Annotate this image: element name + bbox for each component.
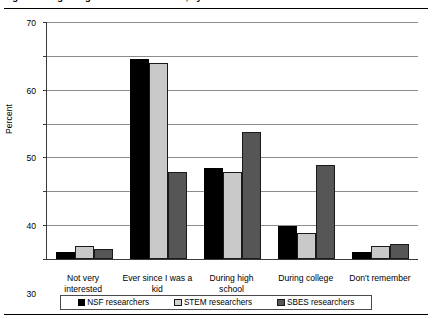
legend-swatch-icon [174, 299, 182, 307]
y-axis-tick-label: 70 [26, 18, 36, 28]
bar-nsf [204, 168, 223, 259]
chart-legend: NSF researchersSTEM researchersSBES rese… [60, 295, 372, 310]
x-axis-labels: Not very interestedEver since I was a ki… [46, 273, 417, 294]
y-axis-tick-label: 30 [26, 289, 36, 299]
bar-sbes [168, 172, 187, 259]
y-axis-title: Percent [4, 79, 14, 159]
x-axis-category-label: Ever since I was a kid [120, 273, 194, 294]
bar-stem [149, 63, 168, 259]
bar-group [344, 22, 418, 259]
legend-item[interactable]: STEM researchers [174, 298, 252, 307]
legend-label: STEM researchers [184, 298, 252, 307]
legend-item[interactable]: SBES researchers [277, 298, 354, 307]
top-divider-rule [4, 8, 428, 9]
bar-group [47, 22, 121, 259]
bar-stem [371, 246, 390, 259]
bar-group [195, 22, 269, 259]
legend-item[interactable]: NSF researchers [78, 298, 149, 307]
bar-group [270, 22, 344, 259]
legend-swatch-icon [78, 299, 86, 307]
bar-stem [297, 233, 316, 259]
bar-stem [223, 172, 242, 259]
legend-label: SBES researchers [287, 298, 354, 307]
y-axis-tick-label: 40 [26, 221, 36, 231]
legend-swatch-icon [277, 299, 285, 307]
x-axis-category-label: Not very interested [46, 273, 120, 294]
plot-wrapper: Percent 010203040506070 Not very interes… [0, 14, 432, 269]
bar-sbes [242, 132, 261, 259]
bar-sbes [94, 249, 113, 259]
figure-title-strip: Figure 1. Beginning of interest in scien… [0, 0, 432, 5]
y-axis-tick-label: 60 [26, 86, 36, 96]
bar-nsf [278, 226, 297, 259]
x-axis-category-label: During high school [194, 273, 268, 294]
bar-nsf [56, 252, 75, 259]
bar-sbes [390, 244, 409, 259]
figure-title: Figure 1. Beginning of interest in scien… [0, 0, 432, 3]
plot-area: 010203040506070 [46, 22, 418, 260]
x-axis-category-label: During college [269, 273, 343, 294]
bar-sbes [316, 165, 335, 259]
x-axis-category-label: Don't remember [343, 273, 417, 294]
bar-nsf [352, 252, 371, 259]
bar-groups [47, 22, 418, 259]
bar-group [121, 22, 195, 259]
bar-nsf [130, 59, 149, 259]
legend-label: NSF researchers [87, 298, 149, 307]
bottom-divider-rule [4, 314, 428, 315]
figure-container: Figure 1. Beginning of interest in scien… [0, 0, 432, 325]
bar-stem [75, 246, 94, 259]
y-axis-tick-label: 50 [26, 153, 36, 163]
y-axis-tick: 0 [43, 259, 47, 260]
